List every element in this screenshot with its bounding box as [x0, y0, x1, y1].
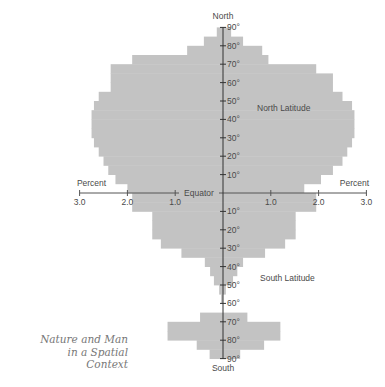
- north-bar-left: [92, 110, 223, 120]
- caption-line: Context: [0, 358, 128, 371]
- south-bar-left: [168, 322, 223, 332]
- north-bar-left: [132, 55, 223, 65]
- south-bar-left: [205, 257, 223, 267]
- north-bar-left: [204, 37, 223, 47]
- north-bar-left: [92, 119, 223, 129]
- south-bar-left: [152, 211, 223, 221]
- north-bar-left: [108, 165, 223, 175]
- north-lat-tick-label: 50°: [227, 96, 240, 106]
- north-bar-left: [94, 138, 223, 148]
- percent-tick-label: 1.0: [169, 197, 181, 207]
- north-lat-tick-label: 90°: [227, 22, 240, 32]
- equator-label: Equator: [184, 188, 214, 198]
- south-bar-left: [168, 331, 223, 341]
- north-lat-tick-label: 80°: [227, 41, 240, 51]
- south-bar-left: [210, 349, 223, 359]
- south-bar-left: [214, 276, 223, 286]
- south-bar-left: [181, 248, 223, 258]
- percent-tick-label: 2.0: [121, 197, 133, 207]
- south-lat-tick-label: 50°: [227, 280, 240, 290]
- south-bar-left: [152, 230, 223, 240]
- south-bar-left: [152, 221, 223, 231]
- north-lat-tick-label: 40°: [227, 114, 240, 124]
- percent-tick-label: 3.0: [360, 197, 372, 207]
- north-bar-right: [223, 138, 352, 148]
- north-bar-right: [223, 156, 343, 166]
- north-label: North: [213, 11, 234, 21]
- north-bar-left: [92, 129, 223, 139]
- north-bar-right: [223, 119, 354, 129]
- latitude-profile-chart: 3.02.01.01.02.03.0 10°20°30°40°50°60°70°…: [0, 0, 385, 387]
- caption-line: Nature and Man: [0, 333, 128, 346]
- north-lat-tick-label: 10°: [227, 170, 240, 180]
- north-bar-right: [223, 147, 347, 157]
- caption: Nature and Man in a Spatial Context: [0, 333, 128, 371]
- south-lat-tick-label: 20°: [227, 225, 240, 235]
- north-bar-left: [94, 101, 223, 111]
- south-lat-tick-label: 10°: [227, 206, 240, 216]
- north-bar-left: [99, 92, 223, 102]
- south-bar-left: [200, 313, 223, 323]
- percent-label-right: Percent: [340, 178, 370, 188]
- south-lat-tick-label: 80°: [227, 335, 240, 345]
- south-lat-tick-label: 70°: [227, 317, 240, 327]
- south-latitude-label: South Latitude: [260, 273, 315, 283]
- north-lat-tick-label: 30°: [227, 133, 240, 143]
- south-bar-left: [161, 239, 223, 249]
- north-bar-left: [104, 156, 224, 166]
- north-bar-left: [217, 27, 223, 37]
- percent-label-left: Percent: [77, 178, 107, 188]
- south-lat-tick-label: 30°: [227, 243, 240, 253]
- percent-tick-label: 1.0: [265, 197, 277, 207]
- south-lat-tick-label: 40°: [227, 262, 240, 272]
- south-lat-tick-label: 60°: [227, 298, 240, 308]
- north-latitude-label: North Latitude: [257, 103, 311, 113]
- caption-line: in a Spatial: [0, 346, 128, 359]
- north-bar-left: [187, 46, 223, 56]
- north-lat-tick-label: 20°: [227, 151, 240, 161]
- south-label: South: [212, 363, 234, 373]
- north-lat-tick-label: 60°: [227, 78, 240, 88]
- north-bar-left: [111, 83, 223, 93]
- north-bar-left: [99, 147, 223, 157]
- percent-tick-label: 3.0: [74, 197, 86, 207]
- south-bar-left: [210, 267, 223, 277]
- north-bar-right: [223, 92, 343, 102]
- north-bar-left: [111, 64, 223, 74]
- north-bar-left: [115, 175, 223, 185]
- north-lat-tick-label: 70°: [227, 59, 240, 69]
- percent-tick-label: 2.0: [313, 197, 325, 207]
- north-bar-right: [223, 184, 304, 194]
- north-bar-right: [223, 129, 354, 139]
- south-bar-left: [219, 285, 223, 295]
- north-bar-left: [111, 73, 223, 83]
- south-bar-left: [197, 340, 223, 350]
